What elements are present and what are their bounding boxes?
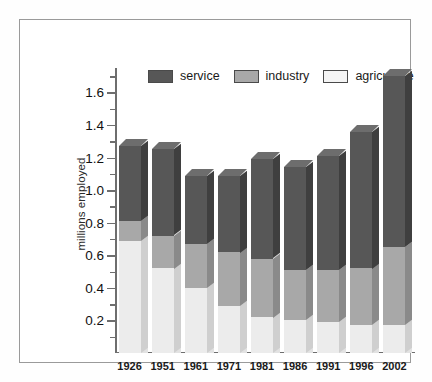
bar-segment-side-1961-industry <box>207 239 214 288</box>
y-axis-major-tick-0.4 <box>107 288 115 289</box>
bar-2002[interactable] <box>383 76 405 353</box>
bar-segment-1986-agriculture[interactable] <box>284 320 306 353</box>
bar-segment-2002-service[interactable] <box>383 76 405 247</box>
x-axis-tick-label-2002: 2002 <box>382 360 406 372</box>
bar-segment-side-1981-agriculture <box>273 312 280 353</box>
x-axis-tick-label-1951: 1951 <box>150 360 174 372</box>
bar-segment-1981-industry[interactable] <box>251 259 273 318</box>
y-axis-major-tick-0.8 <box>107 223 115 224</box>
y-axis-minor-tick-0.5 <box>110 272 115 273</box>
bar-segment-side-1981-industry <box>273 253 280 317</box>
bar-segment-side-1926-service <box>141 141 148 221</box>
bar-segment-side-1951-industry <box>174 230 181 268</box>
y-axis-minor-tick-0.1 <box>110 337 115 338</box>
y-axis-minor-tick-1.3 <box>110 141 115 142</box>
y-axis-tick-label-1.6: 1.6 <box>85 85 104 100</box>
y-axis-minor-tick-0.3 <box>110 304 115 305</box>
bar-segment-side-1926-agriculture <box>141 235 148 353</box>
x-axis-tick-label-1961: 1961 <box>184 360 208 372</box>
bar-segment-side-1991-agriculture <box>339 317 346 353</box>
bar-segment-1926-service[interactable] <box>119 146 141 221</box>
bar-segment-side-1996-industry <box>372 263 379 325</box>
bar-1991[interactable] <box>317 156 339 353</box>
bar-1996[interactable] <box>350 132 372 353</box>
bar-segment-1961-industry[interactable] <box>185 244 207 288</box>
bar-segment-side-1951-service <box>174 144 181 236</box>
bar-segment-1961-service[interactable] <box>185 176 207 244</box>
bar-segment-1961-agriculture[interactable] <box>185 288 207 353</box>
bar-segment-1996-industry[interactable] <box>350 268 372 325</box>
bar-segment-1996-service[interactable] <box>350 132 372 269</box>
bar-segment-1991-service[interactable] <box>317 156 339 270</box>
bar-segment-side-1961-agriculture <box>207 283 214 353</box>
bar-segment-1971-service[interactable] <box>218 176 240 253</box>
bar-segment-1996-agriculture[interactable] <box>350 325 372 353</box>
y-axis-major-tick-0.2 <box>107 320 115 321</box>
bar-segment-side-1986-industry <box>306 265 313 321</box>
bar-1981[interactable] <box>251 159 273 353</box>
bar-1961[interactable] <box>185 176 207 354</box>
bar-segment-2002-agriculture[interactable] <box>383 325 405 353</box>
x-axis-tick-label-1986: 1986 <box>283 360 307 372</box>
bar-segment-side-1991-service <box>339 151 346 270</box>
bar-1926[interactable] <box>119 146 141 353</box>
bar-segment-1926-agriculture[interactable] <box>119 241 141 353</box>
bar-1951[interactable] <box>152 149 174 353</box>
chart-frame: millions employed serviceindustryagricul… <box>19 19 411 363</box>
y-axis-minor-tick-1.1 <box>110 174 115 175</box>
bar-segment-1981-agriculture[interactable] <box>251 317 273 353</box>
bar-segment-side-1986-agriculture <box>306 315 313 353</box>
plot-area: 0.20.40.60.81.01.21.41.61926195119611971… <box>115 68 413 353</box>
x-axis-tick-label-1991: 1991 <box>316 360 340 372</box>
y-axis-major-tick-1.6 <box>107 92 115 93</box>
y-axis-tick-label-1.0: 1.0 <box>85 183 104 198</box>
bar-segment-1951-industry[interactable] <box>152 236 174 269</box>
bar-segment-1971-industry[interactable] <box>218 252 240 306</box>
bar-segment-side-1971-service <box>240 170 247 252</box>
x-axis-tick-label-1981: 1981 <box>250 360 274 372</box>
bar-1971[interactable] <box>218 176 240 354</box>
y-axis-tick-label-0.4: 0.4 <box>85 280 104 295</box>
bar-1986[interactable] <box>284 167 306 353</box>
y-axis-minor-tick-0.7 <box>110 239 115 240</box>
y-axis-major-tick-1.4 <box>107 125 115 126</box>
bar-segment-side-1986-service <box>306 162 313 270</box>
bar-segment-1981-service[interactable] <box>251 159 273 258</box>
y-axis-major-tick-1.2 <box>107 158 115 159</box>
y-axis-tick-label-0.6: 0.6 <box>85 248 104 263</box>
x-axis-tick-label-1926: 1926 <box>117 360 141 372</box>
bar-segment-1986-industry[interactable] <box>284 270 306 320</box>
bar-segment-side-1951-agriculture <box>174 263 181 353</box>
y-axis-major-tick-0.6 <box>107 255 115 256</box>
bar-segment-1986-service[interactable] <box>284 167 306 270</box>
bar-segment-1951-service[interactable] <box>152 149 174 235</box>
bar-segment-side-1991-industry <box>339 265 346 322</box>
bar-segment-side-1961-service <box>207 170 214 244</box>
bar-segment-side-1971-industry <box>240 247 247 306</box>
y-axis-major-tick-1 <box>107 190 115 191</box>
bar-segment-1926-industry[interactable] <box>119 221 141 241</box>
bar-segment-side-1996-service <box>372 126 379 268</box>
y-axis-tick-label-1.4: 1.4 <box>85 118 104 133</box>
y-axis-tick-label-0.8: 0.8 <box>85 215 104 230</box>
bar-segment-1971-agriculture[interactable] <box>218 306 240 353</box>
bar-segment-side-2002-service <box>405 71 412 247</box>
bar-segment-side-2002-industry <box>405 242 412 325</box>
y-axis-minor-tick-1.7 <box>110 76 115 77</box>
y-axis-minor-tick-1.5 <box>110 109 115 110</box>
chart-root: millions employed serviceindustryagricul… <box>0 0 432 382</box>
bar-segment-side-1971-agriculture <box>240 301 247 353</box>
y-axis-tick-label-0.2: 0.2 <box>85 313 104 328</box>
y-axis-minor-tick-0.9 <box>110 206 115 207</box>
bar-segment-side-1981-service <box>273 154 280 259</box>
bar-segment-1991-industry[interactable] <box>317 270 339 322</box>
x-axis-tick-label-1971: 1971 <box>217 360 241 372</box>
bar-segment-1951-agriculture[interactable] <box>152 268 174 353</box>
x-axis-tick-label-1996: 1996 <box>349 360 373 372</box>
bar-segment-2002-industry[interactable] <box>383 247 405 325</box>
bar-segment-1991-agriculture[interactable] <box>317 322 339 353</box>
y-axis-tick-label-1.2: 1.2 <box>85 150 104 165</box>
